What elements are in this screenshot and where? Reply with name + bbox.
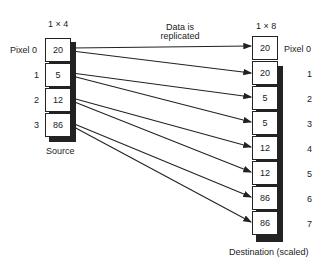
destination-label: Destination (scaled) [229,247,309,257]
source-pixel-label-0: Pixel 0 [10,45,37,55]
destination-cell-5: 12 [252,161,278,185]
destination-pixel-label-0: Pixel 0 [284,44,311,54]
source-pixel-label-2: 2 [34,95,39,105]
source-cell-0: 20 [45,38,71,62]
destination-dims: 1 × 8 [256,21,276,31]
destination-cell-6: 86 [252,186,278,210]
destination-pixel-label-5: 5 [307,169,312,179]
destination-cell-1: 20 [252,61,278,85]
destination-cell-3: 5 [252,111,278,135]
destination-pixel-label-7: 7 [307,219,312,229]
destination-cell-4: 12 [252,136,278,160]
source-dims: 1 × 4 [48,19,68,29]
destination-pixel-label-1: 1 [307,69,312,79]
destination-cell-7: 86 [252,211,278,235]
destination-cell-0: 20 [252,36,278,60]
source-label: Source [46,146,75,156]
destination-pixel-label-2: 2 [307,94,312,104]
destination-cell-2: 5 [252,86,278,110]
destination-pixel-label-6: 6 [307,194,312,204]
source-cell-1: 5 [45,63,71,87]
source-pixel-label-3: 3 [34,120,39,130]
annotation-line2: replicated [150,31,210,41]
source-pixel-label-1: 1 [34,70,39,80]
source-cell-2: 12 [45,88,71,112]
destination-pixel-label-3: 3 [307,119,312,129]
destination-pixel-label-4: 4 [307,144,312,154]
source-cell-3: 86 [45,113,71,137]
